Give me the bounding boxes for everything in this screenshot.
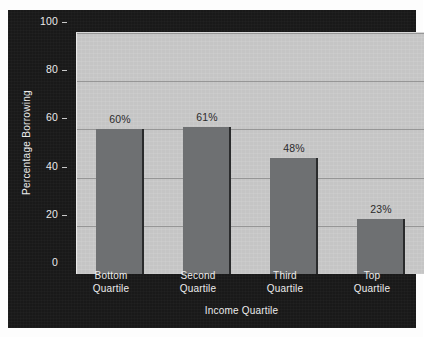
y-tick-mark-100 [62,22,67,23]
chart-panel: Percentage Borrowing 100 80 60 40 20 0 6… [8,10,416,328]
bar-value-label-third-quartile: 48% [264,142,324,154]
bar-third-quartile[interactable] [270,158,318,274]
gridline-80 [77,81,424,82]
x-tick-line-1: Bottom [66,269,156,282]
x-tick-line-2: Quartile [240,282,330,295]
x-tick-line-2: Quartile [66,282,156,295]
plot-area: 60% 61% 48% 23% [76,32,424,274]
y-tick-label-80: 80 [24,63,58,75]
x-tick-label-bottom-quartile: Bottom Quartile [66,269,156,295]
gridline-100 [77,33,424,34]
x-tick-line-1: Second [153,269,243,282]
y-axis-title: Percentage Borrowing [21,90,32,195]
bar-value-label-bottom-quartile: 60% [90,113,150,125]
x-axis-title: Income Quartile [68,305,415,316]
y-tick-mark-20 [62,215,67,216]
y-tick-label-60: 60 [24,111,58,123]
y-tick-mark-60 [62,118,67,119]
y-tick-mark-80 [62,70,67,71]
x-tick-label-second-quartile: Second Quartile [153,269,243,295]
x-tick-line-2: Quartile [153,282,243,295]
bar-top-quartile[interactable] [357,219,405,274]
y-tick-label-20: 20 [24,208,58,220]
y-tick-label-40: 40 [24,160,58,172]
x-tick-line-1: Third [240,269,330,282]
bar-value-label-top-quartile: 23% [351,203,411,215]
y-tick-mark-40 [62,167,67,168]
x-tick-label-top-quartile: Top Quartile [327,269,417,295]
x-tick-line-1: Top [327,269,417,282]
bar-bottom-quartile[interactable] [96,129,144,274]
bar-value-label-second-quartile: 61% [177,111,237,123]
x-tick-line-2: Quartile [327,282,417,295]
y-tick-label-100: 100 [24,15,58,27]
y-tick-label-0: 0 [24,256,58,268]
bar-second-quartile[interactable] [183,127,231,274]
x-tick-label-third-quartile: Third Quartile [240,269,330,295]
